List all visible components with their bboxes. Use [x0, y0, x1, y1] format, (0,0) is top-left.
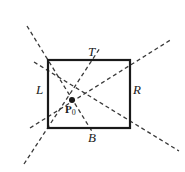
edge-label-bottom: B	[88, 131, 96, 144]
edge-label-right: R	[133, 83, 141, 96]
figure-canvas	[0, 0, 185, 172]
dashed-ray-top-left	[27, 26, 93, 133]
p0-subscript: 0	[72, 108, 76, 117]
edge-label-top: T	[88, 45, 95, 58]
geometry-figure: T L R B P0	[0, 0, 185, 172]
dashed-ray-bottom-left	[24, 48, 100, 164]
p0-point-label: P0	[65, 104, 76, 117]
p0-letter: P	[65, 103, 72, 115]
bounding-rectangle	[48, 60, 130, 128]
dashed-ray-top-right	[30, 39, 172, 128]
dashed-ray-bottom-right	[34, 62, 179, 151]
edge-label-left: L	[36, 83, 43, 96]
